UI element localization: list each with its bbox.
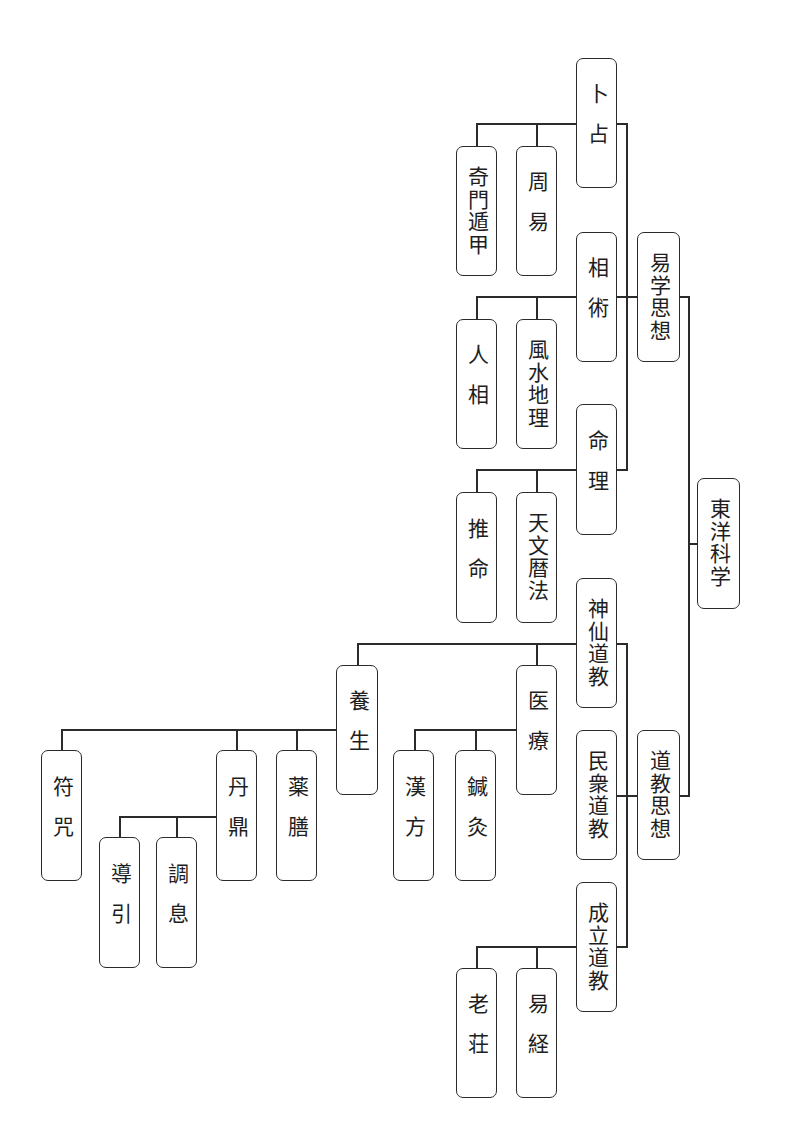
- node-label: 道教思想: [648, 750, 669, 841]
- node-label: 医療: [526, 690, 547, 770]
- node-yojo: 養生: [336, 665, 378, 795]
- node-label: 調息: [166, 863, 187, 943]
- node-label: 天文暦法: [526, 512, 547, 603]
- connector-line: [357, 643, 359, 665]
- node-shinsen-dokyo: 神仙道教: [576, 578, 617, 708]
- connector-line: [536, 643, 538, 665]
- connector-line: [476, 296, 576, 298]
- node-label: 周易: [526, 171, 547, 251]
- node-label: 老荘: [466, 993, 487, 1073]
- connector-line: [414, 729, 516, 731]
- node-label: 卜占: [586, 83, 607, 163]
- connector-line: [536, 946, 538, 968]
- connector-line: [617, 795, 637, 797]
- node-seiritsu-dokyo: 成立道教: [576, 882, 617, 1012]
- connector-line: [236, 729, 238, 750]
- node-label: 命理: [586, 430, 607, 510]
- connector-line: [617, 123, 627, 125]
- connector-line: [475, 729, 477, 750]
- connector-line: [476, 123, 576, 125]
- node-label: 人相: [466, 344, 487, 424]
- node-yakuzen: 薬膳: [276, 750, 317, 881]
- node-chosoku: 調息: [156, 837, 197, 968]
- node-shueki: 周易: [516, 146, 557, 276]
- connector-line: [119, 816, 216, 818]
- connector-line: [119, 816, 121, 837]
- connector-line: [176, 816, 178, 837]
- connector-line: [476, 123, 478, 146]
- node-label: 易経: [526, 993, 547, 1073]
- node-bokusen: 卜占: [576, 58, 617, 188]
- node-tenmon-rekiho: 天文暦法: [516, 492, 557, 623]
- node-label: 薬膳: [286, 776, 307, 856]
- node-roso: 老荘: [456, 968, 497, 1098]
- connector-line: [476, 469, 478, 492]
- node-label: 民衆道教: [586, 750, 607, 841]
- node-label: 風水地理: [526, 339, 547, 430]
- connector-line: [476, 296, 478, 319]
- connector-line: [357, 643, 576, 645]
- connector-line: [536, 469, 538, 492]
- tree-diagram: 東洋科学 易学思想 道教思想 卜占 相術 命理 神仙道教 民衆道教 成立道教 周…: [0, 0, 787, 1147]
- connector-line: [61, 729, 63, 750]
- node-dokyo-shiso: 道教思想: [637, 730, 680, 860]
- node-label: 相術: [586, 257, 607, 337]
- connector-line: [476, 946, 478, 968]
- node-doin: 導引: [99, 837, 140, 968]
- node-soujutsu: 相術: [576, 232, 617, 362]
- node-fuju: 符咒: [41, 750, 82, 881]
- node-label: 奇門遁甲: [466, 166, 487, 257]
- node-fusui-chiri: 風水地理: [516, 319, 557, 449]
- node-label: 神仙道教: [586, 598, 607, 689]
- node-label: 推命: [466, 518, 487, 598]
- connector-line: [617, 469, 627, 471]
- connector-line: [296, 729, 298, 750]
- node-meiri: 命理: [576, 404, 617, 535]
- connector-line: [688, 297, 690, 797]
- node-label: 符咒: [51, 776, 72, 856]
- node-suimei: 推命: [456, 492, 497, 623]
- connector-line: [61, 729, 336, 731]
- connector-line: [476, 946, 576, 948]
- node-label: 易学思想: [648, 252, 669, 343]
- node-ekikyo: 易経: [516, 968, 557, 1098]
- connector-line: [476, 469, 576, 471]
- node-kanpo: 漢方: [393, 750, 434, 881]
- node-label: 東洋科学: [708, 498, 729, 589]
- connector-line: [536, 296, 538, 319]
- node-minshu-dokyo: 民衆道教: [576, 730, 617, 860]
- connector-line: [414, 729, 416, 750]
- node-label: 鍼灸: [465, 776, 486, 856]
- connector-line: [617, 296, 637, 298]
- node-label: 漢方: [403, 776, 424, 856]
- connector-line: [680, 795, 690, 797]
- node-iryo: 医療: [516, 665, 557, 795]
- node-toyo-kagaku: 東洋科学: [697, 478, 740, 609]
- node-label: 導引: [109, 863, 130, 943]
- node-tantei: 丹鼎: [216, 750, 257, 881]
- connector-line: [536, 123, 538, 146]
- connector-line: [617, 643, 627, 645]
- connector-line: [680, 296, 690, 298]
- node-ekigaku-shiso: 易学思想: [637, 232, 680, 362]
- node-shinkyu: 鍼灸: [455, 750, 496, 881]
- node-label: 成立道教: [586, 902, 607, 993]
- node-label: 丹鼎: [226, 776, 247, 856]
- node-label: 養生: [347, 690, 368, 770]
- node-kimon-tonko: 奇門遁甲: [456, 146, 497, 276]
- node-ninso: 人相: [456, 319, 497, 449]
- connector-line: [617, 946, 627, 948]
